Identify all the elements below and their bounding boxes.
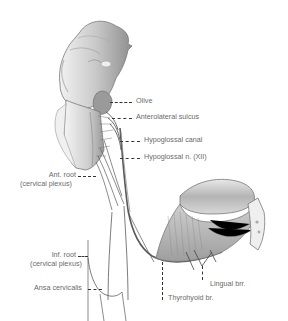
brainstem: [59, 21, 132, 114]
leader-ansa-cervicalis: [88, 289, 102, 290]
leader-anterolateral-sulcus: [112, 118, 132, 119]
leader-thyrohyoid-br: [162, 262, 163, 300]
leader-ant-root: [78, 176, 96, 177]
label-ansa-cervicalis: Ansa cervicalis: [34, 284, 82, 293]
leader-lingual-brr: [202, 266, 203, 280]
tongue: [156, 179, 265, 261]
label-lingual-brr: Lingual brr.: [210, 280, 246, 289]
label-hypoglossal-canal: Hypoglossal canal: [144, 136, 202, 145]
label-olive: Olive: [136, 97, 152, 106]
label-ant-root-sub: (cervical plexus): [20, 180, 72, 189]
leader-inf-root: [78, 256, 88, 257]
label-anterolateral-sulcus: Anterolateral sulcus: [136, 113, 199, 122]
leader-olive: [110, 102, 132, 103]
leader-hypoglossal-nerve: [120, 158, 140, 159]
label-inf-root-sub: (cervical plexus): [30, 260, 82, 269]
label-hypoglossal-nerve: Hypoglossal n. (XII): [144, 153, 207, 162]
label-thyrohyoid-br: Thyrohyoid br.: [168, 294, 214, 303]
leader-hypoglossal-canal: [120, 141, 140, 142]
